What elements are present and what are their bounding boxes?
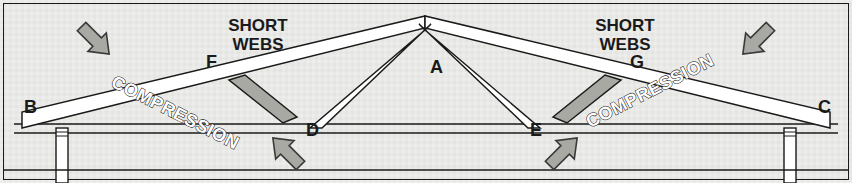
truss-svg-canvas: SHORT WEBS SHORT WEBS COMPRESSION COMPRE… — [0, 0, 852, 183]
joint-label-E: E — [530, 120, 542, 140]
joint-label-D: D — [306, 120, 319, 140]
joint-label-C: C — [818, 97, 831, 117]
roof-truss-diagram: SHORT WEBS SHORT WEBS COMPRESSION COMPRE… — [0, 0, 852, 183]
short-webs-left-label-line1: SHORT — [228, 16, 288, 35]
short-webs-left-label-line2: WEBS — [233, 35, 284, 54]
short-webs-right-label-line1: SHORT — [595, 16, 655, 35]
joint-label-F: F — [206, 52, 217, 72]
joint-label-B: B — [24, 97, 37, 117]
joint-label-G: G — [630, 52, 644, 72]
joint-label-A: A — [430, 57, 443, 77]
